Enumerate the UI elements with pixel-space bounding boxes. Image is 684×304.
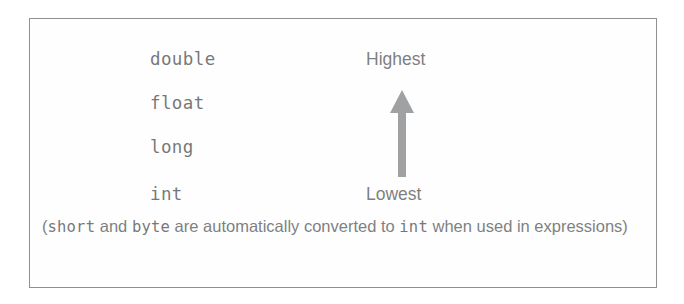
type-row: int	[150, 184, 183, 204]
type-row: long	[150, 137, 194, 157]
caption-text-converted: are automatically converted to	[170, 217, 399, 235]
rank-label-highest: Highest	[366, 49, 425, 70]
rank-label-lowest: Lowest	[366, 184, 421, 205]
type-row: double	[150, 49, 216, 69]
type-row: float	[150, 93, 205, 113]
caption-text-expressions: when used in expressions)	[428, 217, 628, 235]
caption-text-and: and	[95, 217, 132, 235]
diagram-frame: double float long int Highest Lowest (sh…	[29, 18, 657, 288]
caption-type-short: short	[48, 218, 96, 236]
diagram-page: double float long int Highest Lowest (sh…	[0, 0, 684, 304]
caption: (short and byte are automatically conver…	[42, 215, 630, 238]
caption-type-byte: byte	[132, 218, 170, 236]
caption-type-int: int	[399, 218, 428, 236]
up-arrow-icon	[382, 87, 422, 179]
